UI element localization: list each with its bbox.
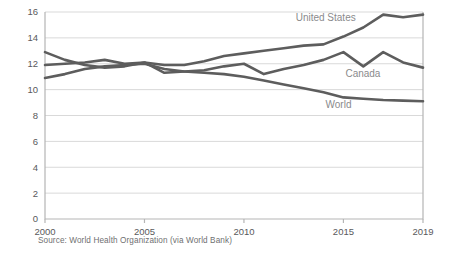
- y-tick-label: 0: [33, 213, 38, 224]
- line-chart: 0246810121416 20002005201020152019 Unite…: [0, 0, 454, 264]
- y-tick-labels: 0246810121416: [27, 6, 38, 224]
- series-label-world: World: [326, 99, 352, 110]
- y-tick-label: 12: [27, 58, 38, 69]
- chart-svg: 0246810121416 20002005201020152019 Unite…: [0, 0, 454, 264]
- series-label-united-states: United States: [296, 12, 356, 23]
- x-tick-label: 2010: [233, 226, 254, 237]
- y-tick-label: 14: [27, 32, 38, 43]
- y-tick-label: 4: [33, 162, 38, 173]
- x-tick-label: 2019: [412, 226, 433, 237]
- series-label-canada: Canada: [345, 68, 380, 79]
- y-tick-label: 10: [27, 84, 38, 95]
- y-tick-label: 16: [27, 6, 38, 17]
- y-tick-label: 6: [33, 136, 38, 147]
- y-tick-label: 8: [33, 110, 38, 121]
- axis-group: [45, 12, 423, 223]
- y-tick-label: 2: [33, 188, 38, 199]
- series-lines-group: [45, 15, 423, 102]
- x-tick-label: 2015: [333, 226, 354, 237]
- gridlines-group: [45, 12, 423, 193]
- source-note: Source: World Health Organization (via W…: [38, 236, 232, 245]
- series-line-united-states: [45, 15, 423, 65]
